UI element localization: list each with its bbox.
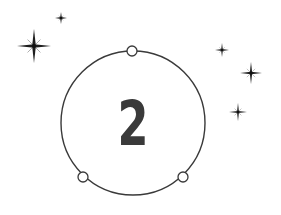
sparkle-medium-right-icon	[240, 62, 262, 84]
sparkle-small-right-bottom-icon	[229, 103, 247, 121]
ring-node-bottom-left-icon	[78, 172, 88, 182]
sparkle-large-left-icon	[17, 29, 51, 63]
ring-node-top-icon	[127, 46, 137, 56]
sparkle-small-top-left-icon	[55, 12, 67, 24]
ring-node-bottom-right-icon	[178, 172, 188, 182]
badge-number: 2	[119, 93, 148, 155]
sparkle-small-right-top-icon	[215, 43, 229, 57]
number-badge-illustration: 2	[0, 0, 281, 215]
